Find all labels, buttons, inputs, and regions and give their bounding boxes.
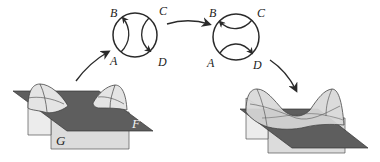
label-a: A bbox=[206, 56, 215, 70]
label-c: C bbox=[257, 6, 266, 20]
label-f: F bbox=[131, 116, 141, 131]
arrow-2 bbox=[167, 21, 209, 24]
label-d: D bbox=[157, 55, 167, 69]
circle-after: B C A D bbox=[206, 6, 266, 72]
label-c: C bbox=[159, 4, 168, 18]
label-b: B bbox=[110, 6, 118, 20]
label-d: D bbox=[252, 58, 262, 72]
label-b: B bbox=[209, 6, 217, 20]
surface-after bbox=[240, 89, 368, 153]
label-a: A bbox=[109, 54, 118, 68]
diagram-canvas: F G B C A D B C A D bbox=[0, 0, 380, 162]
surface-before: F G bbox=[13, 84, 153, 149]
arrow-1 bbox=[76, 52, 108, 81]
circle-before: B C A D bbox=[109, 4, 168, 69]
label-g: G bbox=[56, 133, 66, 148]
arrow-3 bbox=[270, 60, 296, 90]
